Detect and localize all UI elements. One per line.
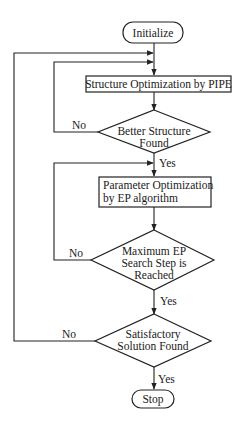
start-node: Initialize: [123, 22, 183, 43]
max-no-label: No: [69, 247, 83, 259]
structure-optimization-node: Structure Optimization by PIPE: [85, 76, 232, 92]
flowchart: Initialize Structure Optimization by PIP…: [0, 0, 247, 431]
stop-label: Stop: [142, 393, 163, 406]
stop-node: Stop: [132, 390, 174, 408]
sat-no-label: No: [62, 328, 76, 340]
max-ep-line1: Maximum EP: [122, 245, 186, 257]
sat-yes-label: Yes: [158, 373, 175, 385]
parameter-optimization-node: Parameter Optimization by EP algorithm: [99, 177, 213, 207]
parameter-optimization-line2: by EP algorithm: [103, 192, 178, 205]
max-ep-decision: Maximum EP Search Step is Reached: [91, 230, 214, 290]
satisfactory-line2: Solution Found: [117, 340, 189, 352]
structure-optimization-label: Structure Optimization by PIPE: [85, 78, 232, 91]
better-no-label: No: [72, 119, 86, 131]
start-label: Initialize: [133, 27, 174, 39]
satisfactory-decision: Satisfactory Solution Found: [95, 314, 211, 367]
better-structure-decision: Better Structure Found: [98, 110, 210, 153]
better-yes-label: Yes: [159, 157, 176, 169]
max-yes-label: Yes: [160, 295, 177, 307]
max-ep-line3: Reached: [134, 269, 174, 281]
parameter-optimization-line1: Parameter Optimization: [103, 179, 213, 192]
better-structure-line2: Found: [139, 137, 169, 149]
better-structure-line1: Better Structure: [117, 125, 190, 137]
